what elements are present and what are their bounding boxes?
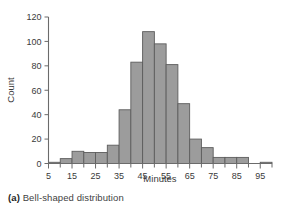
x-tick-label: 25 bbox=[91, 171, 101, 181]
y-tick-label: 0 bbox=[36, 159, 41, 169]
histogram-bar bbox=[60, 159, 72, 164]
histogram-bar bbox=[154, 44, 166, 164]
histogram-bar bbox=[72, 151, 84, 163]
y-axis-title: Count bbox=[5, 77, 16, 103]
histogram-bar bbox=[131, 62, 143, 163]
histogram-bar bbox=[84, 153, 96, 164]
histogram-bar bbox=[190, 139, 202, 163]
histogram-bar bbox=[213, 157, 225, 163]
x-tick-label: 75 bbox=[208, 171, 218, 181]
histogram-bar bbox=[178, 104, 190, 164]
histogram-svg: 020406080100120 5152535455565758595 Minu… bbox=[0, 0, 283, 186]
y-tick-label: 20 bbox=[31, 134, 41, 144]
y-tick-label: 40 bbox=[31, 110, 41, 120]
histogram-bar bbox=[96, 153, 108, 164]
y-ticks-group: 020406080100120 bbox=[26, 12, 48, 169]
x-tick-label: 95 bbox=[255, 171, 265, 181]
y-tick-label: 80 bbox=[31, 61, 41, 71]
x-tick-label: 5 bbox=[46, 171, 51, 181]
caption-text: Bell-shaped distribution bbox=[23, 192, 124, 203]
histogram-bar bbox=[107, 145, 119, 163]
y-tick-label: 120 bbox=[26, 12, 41, 22]
histogram-bar bbox=[237, 157, 249, 163]
x-tick-label: 15 bbox=[67, 171, 77, 181]
x-tick-label: 35 bbox=[114, 171, 124, 181]
x-tick-label: 65 bbox=[185, 171, 195, 181]
histogram-bar bbox=[166, 65, 178, 164]
histogram-bar bbox=[201, 148, 213, 164]
y-tick-label: 100 bbox=[26, 37, 41, 47]
histogram-plot: 020406080100120 5152535455565758595 Minu… bbox=[0, 0, 283, 186]
histogram-bar bbox=[119, 110, 131, 164]
figure-caption: (a) Bell-shaped distribution bbox=[8, 192, 124, 203]
histogram-bar bbox=[143, 32, 155, 164]
bars-group bbox=[49, 32, 273, 164]
x-axis-title: Minutes bbox=[143, 173, 177, 184]
figure-container: 020406080100120 5152535455565758595 Minu… bbox=[0, 0, 283, 216]
caption-tag: (a) bbox=[8, 192, 20, 203]
x-tick-label: 85 bbox=[232, 171, 242, 181]
histogram-bar bbox=[225, 157, 237, 163]
y-tick-label: 60 bbox=[31, 86, 41, 96]
